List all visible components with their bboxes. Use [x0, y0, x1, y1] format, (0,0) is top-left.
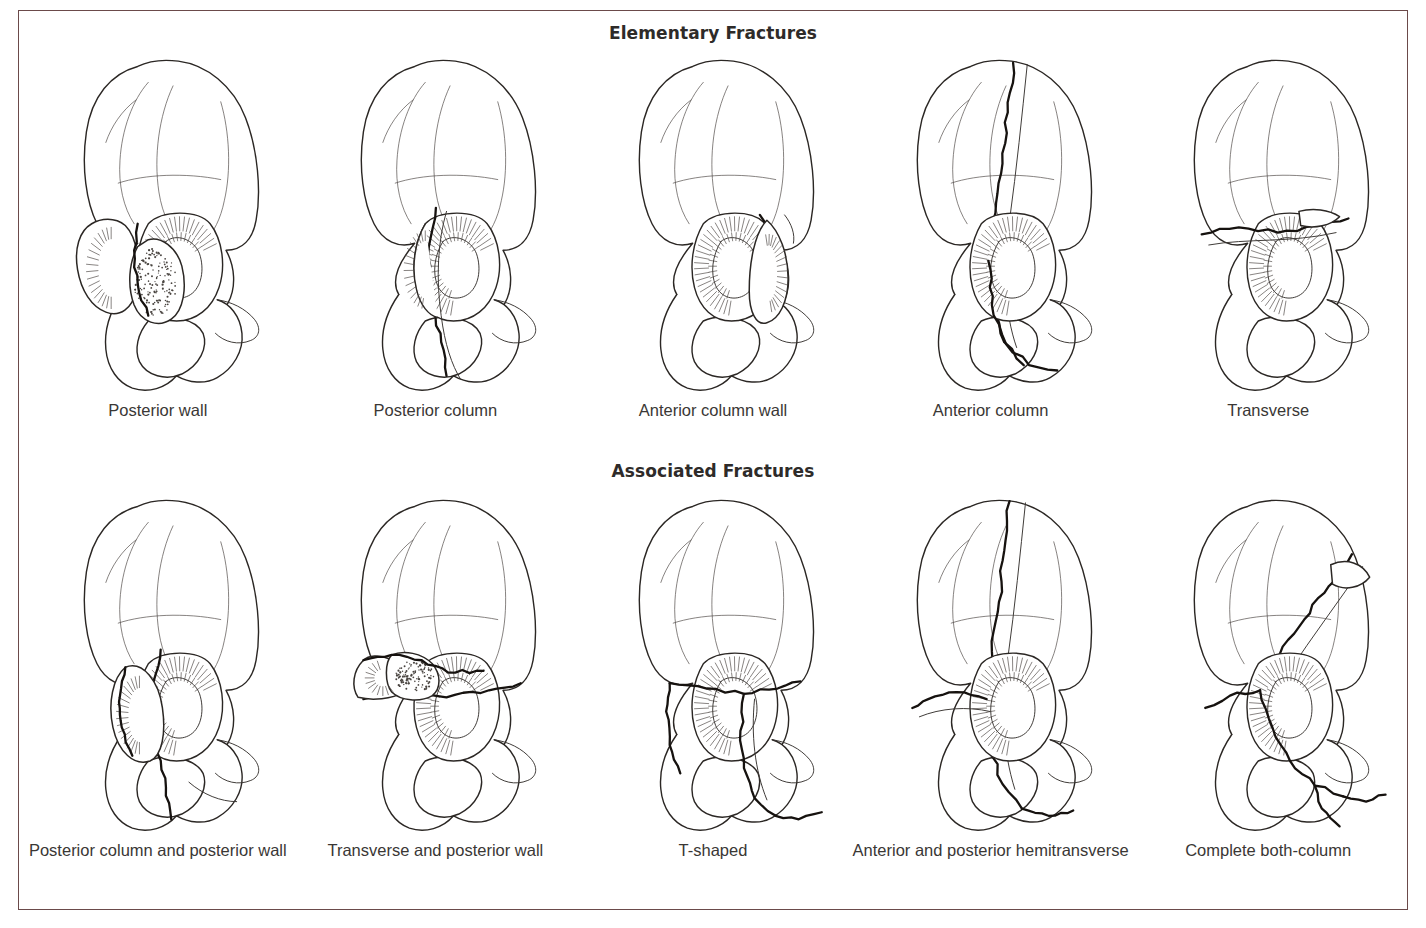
- hemipelvis-drawing: [29, 47, 287, 397]
- panel-caption: Anterior column: [933, 401, 1049, 420]
- fracture-panel-transverse-post-wall: Transverse and posterior wall: [306, 487, 564, 860]
- hemipelvis-drawing: [862, 47, 1120, 397]
- section-associated-heading: Associated Fractures: [19, 461, 1407, 481]
- panel-caption: Anterior column wall: [639, 401, 788, 420]
- hemipelvis-drawing: [584, 487, 842, 837]
- row-elementary-fractures: Posterior wallPosterior columnAnterior c…: [19, 47, 1407, 420]
- panel-caption: Posterior column and posterior wall: [29, 841, 287, 860]
- panel-caption: Transverse: [1227, 401, 1309, 420]
- fracture-panel-posterior-wall: Posterior wall: [29, 47, 287, 420]
- illustration-ant-post-hemitransverse: [862, 487, 1120, 837]
- fracture-panel-t-shaped: T-shaped: [584, 487, 842, 860]
- hemipelvis-drawing: [584, 47, 842, 397]
- illustration-posterior-wall: [29, 47, 287, 397]
- row-associated-fractures: Posterior column and posterior wallTrans…: [19, 487, 1407, 860]
- section-elementary-heading: Elementary Fractures: [19, 23, 1407, 43]
- illustration-posterior-column: [306, 47, 564, 397]
- illustration-anterior-column-wall: [584, 47, 842, 397]
- associated-fractures-title: Associated Fractures: [19, 461, 1407, 481]
- panel-caption: Posterior column: [373, 401, 497, 420]
- fracture-panel-complete-both-column: Complete both-column: [1139, 487, 1397, 860]
- fracture-panel-post-column-post-wall: Posterior column and posterior wall: [29, 487, 287, 860]
- hemipelvis-drawing: [306, 487, 564, 837]
- fracture-panel-anterior-column: Anterior column: [862, 47, 1120, 420]
- hemipelvis-drawing: [306, 47, 564, 397]
- fracture-panel-anterior-column-wall: Anterior column wall: [584, 47, 842, 420]
- hemipelvis-drawing: [862, 487, 1120, 837]
- fracture-panel-ant-post-hemitransverse: Anterior and posterior hemitransverse: [862, 487, 1120, 860]
- panel-caption: Complete both-column: [1185, 841, 1351, 860]
- fracture-panel-transverse: Transverse: [1139, 47, 1397, 420]
- hemipelvis-drawing: [1139, 47, 1397, 397]
- illustration-complete-both-column: [1139, 487, 1397, 837]
- figure-frame: Elementary Fractures Posterior wallPoste…: [18, 10, 1408, 910]
- illustration-transverse: [1139, 47, 1397, 397]
- illustration-post-column-post-wall: [29, 487, 287, 837]
- illustration-t-shaped: [584, 487, 842, 837]
- panel-caption: Anterior and posterior hemitransverse: [853, 841, 1129, 860]
- panel-caption: Posterior wall: [108, 401, 207, 420]
- hemipelvis-drawing: [29, 487, 287, 837]
- illustration-anterior-column: [862, 47, 1120, 397]
- panel-caption: T-shaped: [679, 841, 748, 860]
- fracture-panel-posterior-column: Posterior column: [306, 47, 564, 420]
- elementary-fractures-title: Elementary Fractures: [19, 23, 1407, 43]
- hemipelvis-drawing: [1139, 487, 1397, 837]
- illustration-transverse-post-wall: [306, 487, 564, 837]
- panel-caption: Transverse and posterior wall: [327, 841, 543, 860]
